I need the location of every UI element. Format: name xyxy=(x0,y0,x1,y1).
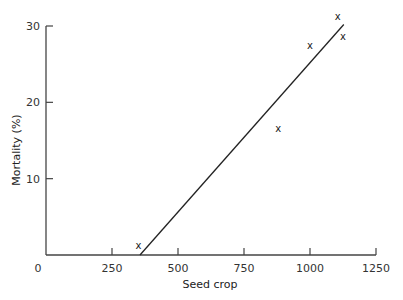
fit-line xyxy=(140,24,344,255)
y-tick-label: 20 xyxy=(26,96,40,109)
x-marker-icon: x xyxy=(340,31,346,42)
x-tick-label: 500 xyxy=(168,262,189,275)
x-marker-icon: x xyxy=(307,40,313,51)
x-marker-icon: x xyxy=(275,123,281,134)
x-tick-label: 750 xyxy=(234,262,255,275)
x-axis-title: Seed crop xyxy=(182,278,237,291)
x-marker-icon: x xyxy=(135,240,141,251)
axes xyxy=(46,26,376,255)
data-points: xxxxx xyxy=(135,11,346,252)
y-axis-title: Mortality (%) xyxy=(10,114,23,185)
x-tick-label: 250 xyxy=(102,262,123,275)
x-tick-label: 1000 xyxy=(296,262,324,275)
scatter-chart: 025050075010001250 102030 xxxxx Seed cro… xyxy=(0,0,403,300)
y-tick-label: 30 xyxy=(26,20,40,33)
y-tick-label: 10 xyxy=(26,173,40,186)
y-ticks: 102030 xyxy=(26,20,53,186)
x-ticks: 025050075010001250 xyxy=(35,248,391,275)
regression-line xyxy=(140,24,344,255)
x-marker-icon: x xyxy=(335,11,341,22)
x-tick-label: 1250 xyxy=(362,262,390,275)
x-tick-label: 0 xyxy=(35,262,42,275)
